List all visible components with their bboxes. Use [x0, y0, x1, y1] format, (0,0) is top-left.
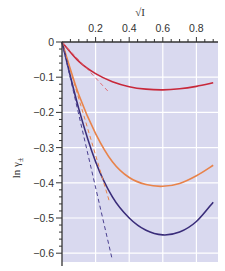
x-axis-title: √I — [135, 6, 145, 18]
y-tick-label: −0.6 — [33, 247, 54, 259]
x-tick-label: 0.8 — [189, 22, 204, 34]
svg-text:ln γ±: ln γ± — [10, 157, 25, 178]
y-tick-label: 0 — [48, 36, 54, 48]
y-tick-label: −0.2 — [33, 106, 54, 118]
y-tick-label: −0.4 — [33, 177, 54, 189]
y-axis-title: ln γ± — [10, 157, 25, 178]
y-tick-label: −0.5 — [33, 212, 54, 224]
x-tick-label: 0.4 — [122, 22, 137, 34]
y-tick-label: −0.1 — [33, 71, 54, 83]
y-tick-label: −0.3 — [33, 142, 54, 154]
x-tick-label: 0.6 — [155, 22, 170, 34]
x-tick-label: 0.2 — [88, 22, 103, 34]
plot-area — [62, 42, 218, 262]
chart: 0.20.40.60.80−0.1−0.2−0.3−0.4−0.5−0.6 √I… — [0, 0, 225, 271]
